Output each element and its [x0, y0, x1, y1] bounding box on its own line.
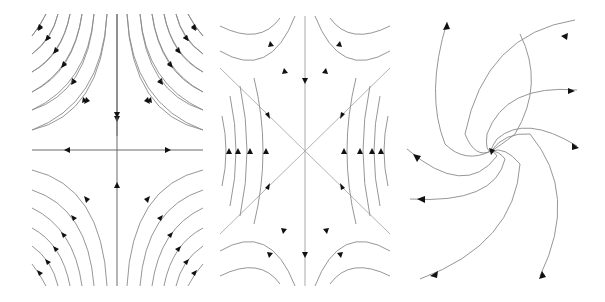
arrow-icon	[114, 112, 120, 118]
phase-portrait-spiral-sink	[405, 14, 600, 289]
phase-portrait-saddle-diagonal	[220, 16, 390, 286]
phase-portrait-saddle-full	[30, 14, 205, 286]
